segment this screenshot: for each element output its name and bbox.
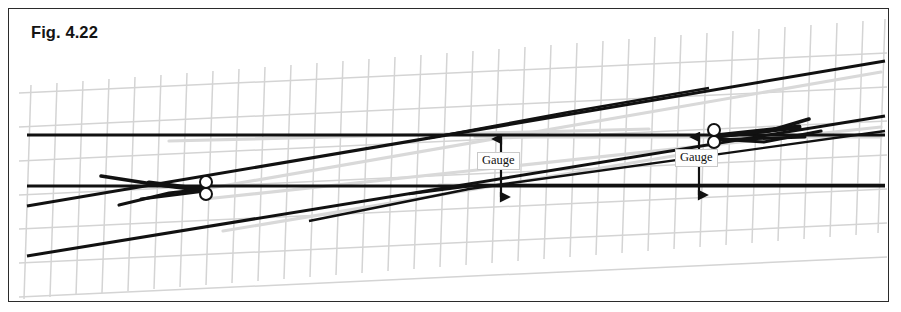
ghost-rails bbox=[169, 72, 881, 231]
turnout-diagram bbox=[9, 9, 890, 303]
switch-pivot-left-upper bbox=[200, 176, 212, 188]
switch-pivot-right-upper bbox=[708, 124, 720, 136]
switch-pivot-left-lower bbox=[200, 188, 212, 200]
switch-pivot-right-lower bbox=[708, 136, 720, 148]
gauge-label-right: Gauge bbox=[675, 149, 718, 167]
sleeper-grid bbox=[19, 19, 887, 299]
figure-frame: Fig. 4.22 bbox=[8, 8, 889, 302]
gauge-label-left: Gauge bbox=[477, 152, 520, 170]
